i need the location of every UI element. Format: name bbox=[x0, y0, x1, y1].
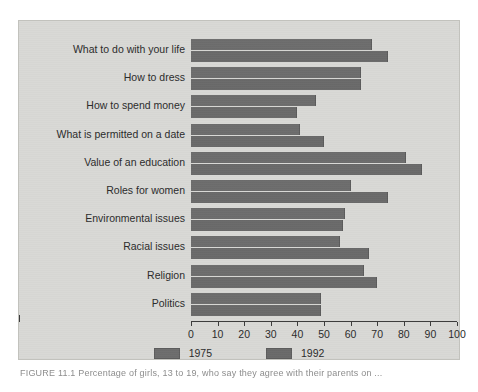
x-axis-tick bbox=[377, 322, 378, 326]
bar-group bbox=[191, 265, 377, 288]
bar-1975 bbox=[191, 152, 406, 163]
x-axis-tick-label: 10 bbox=[212, 328, 224, 340]
bar-group bbox=[191, 95, 316, 118]
bar-group bbox=[191, 236, 369, 259]
x-axis-tick bbox=[297, 322, 298, 326]
x-axis-tick bbox=[351, 322, 352, 326]
x-axis-tick-label: 90 bbox=[425, 328, 437, 340]
x-axis-tick bbox=[430, 322, 431, 326]
bar-1992 bbox=[191, 248, 369, 259]
bar-group bbox=[191, 208, 345, 231]
x-axis-tick bbox=[244, 322, 245, 326]
legend-swatch-icon bbox=[266, 348, 292, 359]
legend-1992: 1992 bbox=[266, 347, 324, 359]
x-axis-tick bbox=[404, 322, 405, 326]
category-label: Value of an education bbox=[31, 157, 185, 168]
legend-1975: 1975 bbox=[154, 347, 212, 359]
chart-legend: 19751992 bbox=[19, 347, 459, 359]
bar-1975 bbox=[191, 236, 340, 247]
x-axis-tick-label: 80 bbox=[398, 328, 410, 340]
bar-1992 bbox=[191, 164, 422, 175]
chart-panel: What to do with your lifeHow to dressHow… bbox=[18, 20, 460, 360]
x-axis-tick-label: 60 bbox=[345, 328, 357, 340]
x-axis-tick bbox=[191, 322, 192, 326]
legend-swatch-icon bbox=[154, 348, 180, 359]
bar-group bbox=[191, 293, 321, 316]
x-axis-tick-label: 30 bbox=[265, 328, 277, 340]
category-label: What is permitted on a date bbox=[31, 129, 185, 140]
bar-1975 bbox=[191, 95, 316, 106]
x-axis-tick bbox=[218, 322, 219, 326]
bar-1992 bbox=[191, 79, 361, 90]
bar-1992 bbox=[191, 192, 388, 203]
x-axis-tick-label: 40 bbox=[292, 328, 304, 340]
figure-caption: FIGURE 11.1 Percentage of girls, 13 to 1… bbox=[20, 368, 460, 386]
bar-1975 bbox=[191, 180, 351, 191]
category-label: Environmental issues bbox=[31, 213, 185, 224]
category-label: Racial issues bbox=[31, 241, 185, 252]
bar-1992 bbox=[191, 51, 388, 62]
x-axis-tick bbox=[271, 322, 272, 326]
x-axis-tick bbox=[324, 322, 325, 326]
bar-1975 bbox=[191, 208, 345, 219]
category-label: Politics bbox=[31, 298, 185, 309]
legend-label: 1992 bbox=[301, 347, 324, 359]
x-axis-tick-label: 100 bbox=[448, 328, 466, 340]
x-axis-tick bbox=[457, 322, 458, 326]
x-axis-tick-label: 50 bbox=[318, 328, 330, 340]
category-label: Religion bbox=[31, 270, 185, 281]
category-label: What to do with your life bbox=[31, 44, 185, 55]
bar-1992 bbox=[191, 136, 324, 147]
bar-group bbox=[191, 39, 388, 62]
bar-1975 bbox=[191, 39, 372, 50]
x-axis-tick-label: 0 bbox=[188, 328, 194, 340]
bar-1992 bbox=[191, 277, 377, 288]
bar-group bbox=[191, 67, 361, 90]
bar-1992 bbox=[191, 305, 321, 316]
x-axis-tick-label: 70 bbox=[371, 328, 383, 340]
plot-area: What to do with your lifeHow to dressHow… bbox=[19, 21, 459, 359]
figure-screenshot: What to do with your lifeHow to dressHow… bbox=[0, 0, 478, 392]
x-axis-tick-label: 20 bbox=[238, 328, 250, 340]
bar-1975 bbox=[191, 265, 364, 276]
figure-caption-text: FIGURE 11.1 Percentage of girls, 13 to 1… bbox=[20, 368, 382, 379]
bar-1975 bbox=[191, 293, 321, 304]
bar-1992 bbox=[191, 220, 343, 231]
category-label: How to spend money bbox=[31, 100, 185, 111]
category-label: How to dress bbox=[31, 72, 185, 83]
bar-1992 bbox=[191, 107, 297, 118]
category-label: Roles for women bbox=[31, 185, 185, 196]
legend-label: 1975 bbox=[189, 347, 212, 359]
bar-1975 bbox=[191, 67, 361, 78]
bar-group bbox=[191, 180, 388, 203]
bar-group bbox=[191, 152, 422, 175]
bar-group bbox=[191, 124, 324, 147]
bar-1975 bbox=[191, 124, 300, 135]
x-axis-right-cap bbox=[19, 315, 20, 322]
